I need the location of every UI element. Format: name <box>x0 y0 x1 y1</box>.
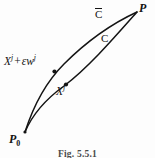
figure-caption: Fig. 5.5.1 <box>0 149 155 158</box>
base-point-label: Xj <box>56 84 65 97</box>
start-point-label: P0 <box>9 133 20 148</box>
varied-curve-letter: C <box>95 8 102 20</box>
base-curve-path <box>25 12 137 132</box>
varied-curve-label: C <box>95 8 102 20</box>
diagram-canvas <box>0 0 155 158</box>
varied-point-base: X <box>4 55 11 67</box>
varied-point-base-superscript: j <box>11 53 13 62</box>
varied-point-variation-superscript: j <box>34 53 36 62</box>
base-point-superscript: j <box>63 83 65 92</box>
varied-point-marker <box>52 69 56 73</box>
base-curve-label: C <box>101 33 108 44</box>
end-point-label: P <box>139 2 146 14</box>
figure-container: Xj + εwj Xj C C P P0 Fig. 5.5.1 <box>0 0 155 158</box>
varied-point-operator: + <box>14 55 21 67</box>
start-point-subscript: 0 <box>16 139 20 148</box>
varied-point-label: Xj + εwj <box>4 54 36 67</box>
varied-point-variation: εw <box>22 55 34 67</box>
start-point-marker <box>23 130 26 133</box>
base-point-base: X <box>56 85 63 97</box>
overbar-accent: C <box>95 8 102 20</box>
